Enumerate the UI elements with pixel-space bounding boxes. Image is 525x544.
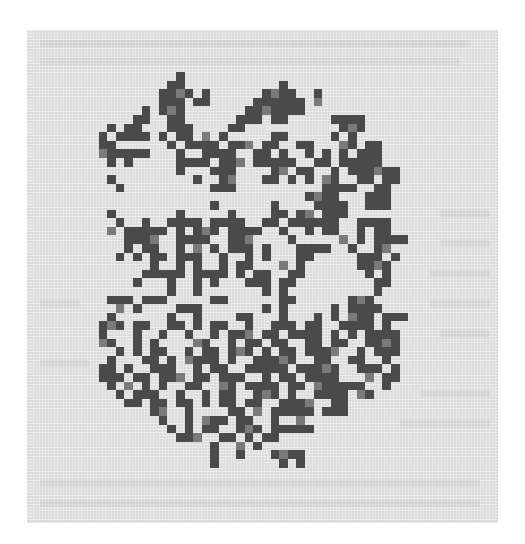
lattice-cell <box>159 399 168 408</box>
lattice-cell <box>176 132 185 141</box>
lattice-cell <box>219 261 228 270</box>
lattice-cell <box>331 218 340 227</box>
lattice-cell <box>322 201 331 210</box>
lattice-cell <box>124 124 133 133</box>
lattice-cell <box>357 296 366 305</box>
lattice-cell <box>167 321 176 330</box>
lattice-cell <box>339 407 348 416</box>
lattice-cell <box>236 407 245 416</box>
lattice-cell <box>374 149 383 158</box>
lattice-cell <box>322 407 331 416</box>
lattice-cell <box>150 364 159 373</box>
lattice-cell <box>245 106 254 115</box>
lattice-cell <box>348 313 357 322</box>
lattice-cell <box>271 132 280 141</box>
lattice-cell <box>219 253 228 262</box>
lattice-cell <box>219 132 228 141</box>
lattice-cell <box>124 244 133 253</box>
lattice-cell <box>219 382 228 391</box>
lattice-cell <box>176 399 185 408</box>
lattice-cell <box>176 167 185 176</box>
lattice-cell <box>279 167 288 176</box>
lattice-cell <box>382 321 391 330</box>
lattice-cell <box>185 132 194 141</box>
lattice-cell <box>133 330 142 339</box>
lattice-cell <box>210 459 219 468</box>
lattice-cell <box>357 149 366 158</box>
lattice-cell <box>228 330 237 339</box>
lattice-cell <box>331 373 340 382</box>
lattice-cell <box>210 201 219 210</box>
lattice-cell <box>357 347 366 356</box>
lattice-cell <box>210 356 219 365</box>
lattice-cell <box>365 218 374 227</box>
lattice-cell <box>331 167 340 176</box>
lattice-cell <box>314 321 323 330</box>
lattice-cell <box>202 132 211 141</box>
lattice-cell <box>288 321 297 330</box>
lattice-cell <box>150 296 159 305</box>
lattice-cell <box>365 149 374 158</box>
lattice-cell <box>210 416 219 425</box>
lattice-cell <box>348 158 357 167</box>
lattice-cell <box>116 132 125 141</box>
lattice-cell <box>339 158 348 167</box>
lattice-cell <box>167 313 176 322</box>
lattice-cell <box>185 356 194 365</box>
lattice-cell <box>116 304 125 313</box>
lattice-cell <box>245 115 254 124</box>
lattice-cell <box>322 382 331 391</box>
lattice-cell <box>210 149 219 158</box>
lattice-cell <box>331 227 340 236</box>
lattice-cell <box>167 141 176 150</box>
lattice-cell <box>331 382 340 391</box>
lattice-cell <box>279 304 288 313</box>
lattice-cell <box>305 399 314 408</box>
lattice-cell <box>167 425 176 434</box>
lattice-cell <box>374 227 383 236</box>
lattice-cell <box>271 407 280 416</box>
lattice-cell <box>142 115 151 124</box>
lattice-cell <box>288 98 297 107</box>
lattice-cell <box>357 158 366 167</box>
lattice-cell <box>288 399 297 408</box>
lattice-cell <box>271 106 280 115</box>
lattice-cell <box>253 390 262 399</box>
lattice-cell <box>314 390 323 399</box>
lattice-cell <box>167 81 176 90</box>
lattice-cell <box>219 218 228 227</box>
lattice-cell <box>288 373 297 382</box>
lattice-cell <box>279 313 288 322</box>
bleed-through-text <box>440 210 490 217</box>
lattice-cell <box>271 339 280 348</box>
lattice-cell <box>314 158 323 167</box>
lattice-cell <box>202 149 211 158</box>
lattice-cell <box>167 106 176 115</box>
lattice-cell <box>357 218 366 227</box>
lattice-cell <box>305 425 314 434</box>
lattice-cell <box>159 347 168 356</box>
lattice-cell <box>185 124 194 133</box>
lattice-cell <box>279 399 288 408</box>
lattice-cell <box>305 167 314 176</box>
lattice-cell <box>348 141 357 150</box>
lattice-cell <box>210 442 219 451</box>
lattice-cell <box>202 425 211 434</box>
lattice-cell <box>314 347 323 356</box>
lattice-cell <box>331 399 340 408</box>
lattice-cell <box>228 356 237 365</box>
lattice-cell <box>176 106 185 115</box>
lattice-cell <box>228 227 237 236</box>
lattice-cell <box>374 330 383 339</box>
lattice-cell <box>219 364 228 373</box>
lattice-cell <box>236 227 245 236</box>
lattice-cell <box>228 167 237 176</box>
lattice-cell <box>296 167 305 176</box>
lattice-cell <box>176 373 185 382</box>
lattice-cell <box>365 364 374 373</box>
lattice-cell <box>296 261 305 270</box>
lattice-cell <box>331 192 340 201</box>
lattice-cell <box>167 270 176 279</box>
lattice-cell <box>185 407 194 416</box>
lattice-cell <box>382 339 391 348</box>
